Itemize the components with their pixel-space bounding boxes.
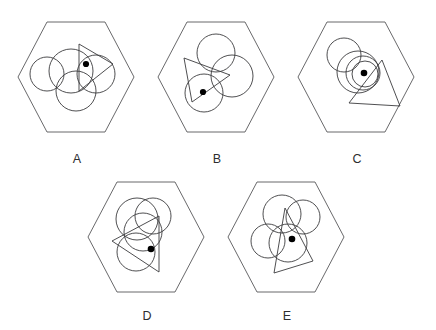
panel-label-e: E [283, 309, 291, 323]
panel-e: E [228, 182, 344, 323]
panel-label-d: D [142, 309, 151, 323]
dot-marker [361, 70, 368, 77]
hexagon-panels-figure: ABCDE [0, 0, 436, 330]
circle-1 [30, 57, 64, 91]
circle-1 [197, 34, 235, 72]
dot-marker [148, 246, 155, 253]
hexagon-outline [228, 182, 344, 292]
circle-1 [327, 38, 361, 72]
circle-2 [211, 55, 253, 97]
circle-2 [286, 200, 320, 234]
panel-a: A [18, 22, 134, 166]
dot-marker [83, 61, 89, 67]
puzzle-figure-container: ABCDE [0, 0, 436, 330]
dot-marker [289, 236, 296, 243]
panel-b: B [158, 22, 274, 166]
circle-4 [269, 224, 307, 262]
hexagon-outline [298, 22, 414, 132]
panel-d: D [88, 182, 204, 323]
panel-label-c: C [352, 152, 361, 166]
panel-label-a: A [73, 152, 82, 166]
circle-2 [49, 49, 93, 93]
triangle [79, 44, 113, 91]
panel-c: C [298, 22, 414, 166]
panel-label-b: B [213, 152, 221, 166]
circle-3 [251, 224, 285, 258]
hexagon-outline [18, 22, 134, 132]
hexagon-outline [158, 22, 274, 132]
dot-marker [200, 89, 206, 95]
hexagon-outline [88, 182, 204, 292]
